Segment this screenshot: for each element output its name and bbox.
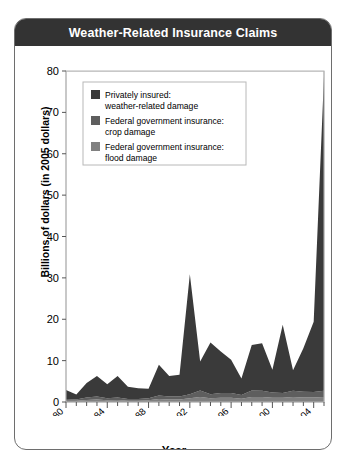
legend-swatch-2: [91, 142, 100, 151]
chart-card: Weather-Related Insurance Claims Billion…: [14, 18, 332, 450]
top-mask: [15, 46, 332, 71]
x-axis-label: Year: [15, 444, 332, 450]
x-tick-label: 1996: [208, 406, 231, 416]
legend-label-1-line2: crop damage: [105, 127, 155, 137]
legend-label-2-line2: flood damage: [105, 153, 157, 163]
x-tick-label: 1992: [167, 406, 190, 416]
area-chart: 0102030405060708019801984198819921996200…: [15, 46, 332, 416]
chart-title-bar: Weather-Related Insurance Claims: [15, 19, 331, 46]
legend-label-0-line2: weather-related damage: [104, 101, 198, 111]
y-tick-label: 20: [47, 313, 59, 325]
y-tick-label: 10: [47, 355, 59, 367]
legend-swatch-0: [91, 90, 100, 99]
x-tick-label: 1988: [125, 406, 148, 416]
plot-container: Billions of dollars (in 2005 dollars) 01…: [15, 46, 332, 416]
y-tick-label: 80: [47, 65, 59, 77]
legend-label-1-line1: Federal government insurance:: [105, 116, 224, 126]
legend-label-2-line1: Federal government insurance:: [105, 142, 224, 152]
x-tick-label: 1984: [84, 406, 107, 416]
page-title: Weather-Related Insurance Claims: [69, 26, 278, 40]
x-tick-label: 2000: [249, 406, 272, 416]
legend-label-0-line1: Privately insured:: [105, 90, 171, 100]
x-tick-label: 2004: [290, 406, 313, 416]
y-axis-label: Billions of dollars (in 2005 dollars): [39, 77, 51, 307]
legend-swatch-1: [91, 116, 100, 125]
